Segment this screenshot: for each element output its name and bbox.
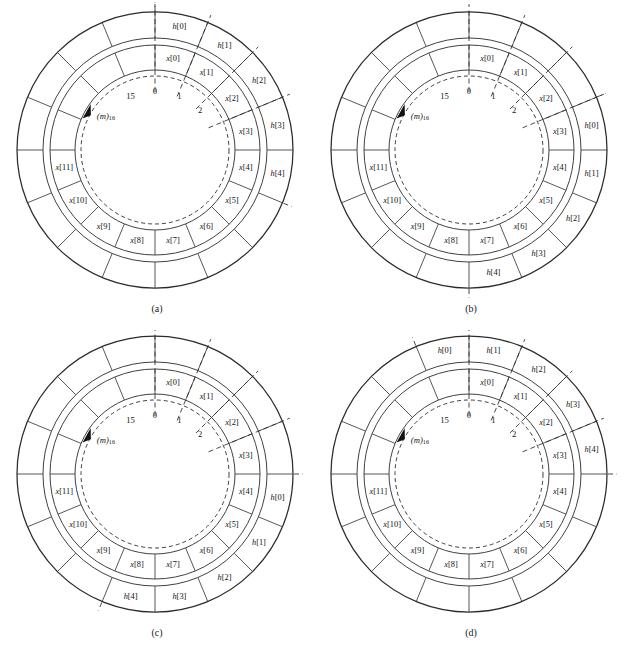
svg-text:h[0]: h[0] — [585, 121, 599, 130]
svg-text:x[4]: x[4] — [238, 487, 253, 496]
svg-text:h[3]: h[3] — [566, 399, 580, 408]
svg-text:x[8]: x[8] — [129, 236, 144, 245]
svg-text:h[1]: h[1] — [585, 169, 599, 178]
svg-text:x[6]: x[6] — [199, 546, 214, 555]
ring-diagram-a: 21015x[0]x[1]x[2]x[3]x[4]x[5]x[6]x[7]x[8… — [0, 0, 314, 330]
svg-text:h[4]: h[4] — [585, 445, 599, 454]
svg-text:h[1]: h[1] — [486, 346, 500, 355]
svg-text:h[4]: h[4] — [486, 268, 500, 277]
svg-text:0: 0 — [467, 86, 471, 96]
svg-text:15: 15 — [440, 415, 449, 425]
svg-text:h[2]: h[2] — [217, 573, 231, 582]
svg-text:(m)16: (m)16 — [97, 435, 115, 445]
svg-text:x[7]: x[7] — [479, 236, 494, 245]
panel-caption-b: (b) — [314, 303, 628, 314]
svg-text:x[0]: x[0] — [479, 378, 494, 387]
svg-text:x[9]: x[9] — [410, 546, 425, 555]
svg-text:0: 0 — [153, 410, 157, 420]
svg-text:x[8]: x[8] — [129, 560, 144, 569]
svg-text:(m)16: (m)16 — [411, 435, 429, 445]
svg-text:1: 1 — [177, 415, 181, 425]
svg-text:x[7]: x[7] — [165, 236, 180, 245]
ring-panel-d: 21015x[0]x[1]x[2]x[3]x[4]x[5]x[6]x[7]x[8… — [314, 330, 628, 657]
svg-text:x[8]: x[8] — [443, 560, 458, 569]
panel-caption-d: (d) — [314, 627, 628, 638]
svg-text:2: 2 — [198, 429, 202, 439]
svg-text:x[5]: x[5] — [224, 520, 239, 529]
svg-text:h[2]: h[2] — [566, 214, 580, 223]
svg-text:x[0]: x[0] — [479, 54, 494, 63]
svg-text:h[3]: h[3] — [531, 249, 545, 258]
svg-text:2: 2 — [512, 105, 516, 115]
svg-text:x[11]: x[11] — [55, 487, 74, 496]
svg-text:x[10]: x[10] — [68, 196, 87, 205]
svg-text:x[7]: x[7] — [165, 560, 180, 569]
svg-text:2: 2 — [198, 105, 202, 115]
svg-text:x[11]: x[11] — [369, 487, 388, 496]
svg-text:(m)16: (m)16 — [97, 111, 115, 121]
svg-text:x[9]: x[9] — [96, 222, 111, 231]
svg-text:h[2]: h[2] — [531, 365, 545, 374]
ring-panel-c: 21015x[0]x[1]x[2]x[3]x[4]x[5]x[6]x[7]x[8… — [0, 330, 314, 657]
svg-text:x[4]: x[4] — [552, 163, 567, 172]
svg-text:x[3]: x[3] — [238, 451, 253, 460]
panel-caption-c: (c) — [0, 627, 314, 638]
svg-text:x[1]: x[1] — [513, 392, 528, 401]
svg-text:x[10]: x[10] — [382, 196, 401, 205]
ring-panel-a: 21015x[0]x[1]x[2]x[3]x[4]x[5]x[6]x[7]x[8… — [0, 0, 314, 330]
svg-text:x[5]: x[5] — [538, 196, 553, 205]
svg-text:x[2]: x[2] — [224, 94, 239, 103]
svg-text:x[5]: x[5] — [224, 196, 239, 205]
svg-text:h[0]: h[0] — [172, 22, 186, 31]
svg-text:x[4]: x[4] — [552, 487, 567, 496]
svg-text:x[6]: x[6] — [513, 546, 528, 555]
svg-text:x[9]: x[9] — [96, 546, 111, 555]
svg-text:x[0]: x[0] — [165, 54, 180, 63]
svg-text:h[0]: h[0] — [438, 346, 452, 355]
svg-text:h[1]: h[1] — [217, 41, 231, 50]
svg-text:1: 1 — [491, 91, 495, 101]
svg-text:0: 0 — [153, 86, 157, 96]
svg-text:x[11]: x[11] — [55, 163, 74, 172]
svg-text:h[3]: h[3] — [172, 592, 186, 601]
svg-text:(m)16: (m)16 — [411, 111, 429, 121]
svg-text:x[10]: x[10] — [382, 520, 401, 529]
svg-text:x[6]: x[6] — [199, 222, 214, 231]
svg-text:15: 15 — [440, 91, 449, 101]
svg-text:x[3]: x[3] — [552, 127, 567, 136]
svg-text:h[3]: h[3] — [271, 121, 285, 130]
svg-text:15: 15 — [126, 415, 135, 425]
svg-text:0: 0 — [467, 410, 471, 420]
svg-text:1: 1 — [491, 415, 495, 425]
svg-text:x[4]: x[4] — [238, 163, 253, 172]
svg-text:x[10]: x[10] — [68, 520, 87, 529]
svg-text:h[0]: h[0] — [271, 493, 285, 502]
ring-diagram-c: 21015x[0]x[1]x[2]x[3]x[4]x[5]x[6]x[7]x[8… — [0, 330, 314, 657]
svg-text:x[2]: x[2] — [538, 418, 553, 427]
ring-panel-b: 21015x[0]x[1]x[2]x[3]x[4]x[5]x[6]x[7]x[8… — [314, 0, 628, 330]
svg-text:h[4]: h[4] — [124, 592, 138, 601]
svg-text:15: 15 — [126, 91, 135, 101]
ring-diagram-b: 21015x[0]x[1]x[2]x[3]x[4]x[5]x[6]x[7]x[8… — [314, 0, 628, 330]
svg-text:x[1]: x[1] — [199, 68, 214, 77]
svg-text:2: 2 — [512, 429, 516, 439]
svg-text:x[2]: x[2] — [538, 94, 553, 103]
svg-text:x[9]: x[9] — [410, 222, 425, 231]
svg-text:x[8]: x[8] — [443, 236, 458, 245]
svg-text:x[5]: x[5] — [538, 520, 553, 529]
svg-text:x[11]: x[11] — [369, 163, 388, 172]
svg-text:x[6]: x[6] — [513, 222, 528, 231]
svg-text:x[3]: x[3] — [552, 451, 567, 460]
figure-panel-grid: 21015x[0]x[1]x[2]x[3]x[4]x[5]x[6]x[7]x[8… — [0, 0, 628, 657]
svg-text:x[7]: x[7] — [479, 560, 494, 569]
svg-text:1: 1 — [177, 91, 181, 101]
panel-caption-a: (a) — [0, 303, 314, 314]
ring-diagram-d: 21015x[0]x[1]x[2]x[3]x[4]x[5]x[6]x[7]x[8… — [314, 330, 628, 657]
svg-text:h[2]: h[2] — [252, 75, 266, 84]
svg-text:h[4]: h[4] — [271, 169, 285, 178]
svg-text:x[0]: x[0] — [165, 378, 180, 387]
svg-text:x[1]: x[1] — [513, 68, 528, 77]
svg-text:x[2]: x[2] — [224, 418, 239, 427]
svg-text:h[1]: h[1] — [252, 538, 266, 547]
svg-text:x[1]: x[1] — [199, 392, 214, 401]
